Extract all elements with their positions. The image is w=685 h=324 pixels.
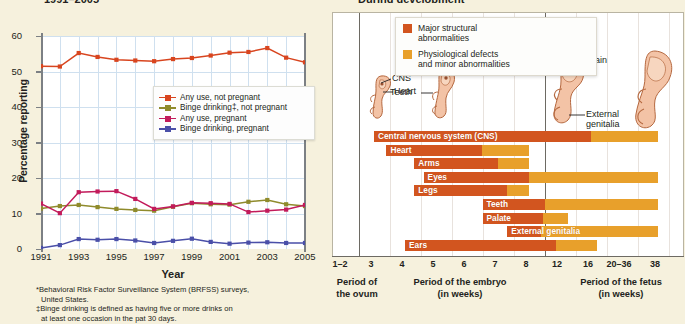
series-marker[interactable]: [265, 240, 269, 244]
series-marker[interactable]: [114, 58, 118, 62]
series-marker[interactable]: [133, 208, 137, 212]
series-marker[interactable]: [58, 64, 62, 68]
legend-label: Any use, pregnant: [180, 114, 246, 123]
series-marker[interactable]: [77, 203, 81, 207]
series-marker[interactable]: [95, 205, 99, 209]
series-marker[interactable]: [246, 210, 250, 214]
series-marker[interactable]: [152, 241, 156, 245]
series-marker[interactable]: [227, 51, 231, 55]
series-marker[interactable]: [152, 59, 156, 63]
timeline-chart-area: CNS Heart Teeth Ear Brain External genit…: [332, 12, 684, 257]
bar-segment-minor: [482, 145, 529, 156]
series-marker[interactable]: [265, 46, 269, 50]
y-tick-label: 10: [0, 208, 22, 219]
period-embryo: Period of the embryo (in weeks): [380, 277, 540, 300]
legend-item-major-structural[interactable]: Major structural abnormalities: [403, 23, 589, 44]
legend-swatch-icon: [403, 50, 412, 59]
series-marker[interactable]: [284, 241, 288, 245]
bar-teeth[interactable]: Teeth: [483, 199, 659, 210]
series-marker[interactable]: [246, 200, 250, 204]
series-marker[interactable]: [171, 57, 175, 61]
bar-arms[interactable]: Arms: [414, 158, 529, 169]
y-tick-label: 60: [0, 30, 22, 41]
bar-label: Legs: [418, 185, 437, 196]
legend-label: Binge drinking‡, not pregnant: [180, 103, 287, 112]
callout-external-genitalia-line1: External: [586, 109, 619, 120]
series-marker[interactable]: [77, 190, 81, 194]
series-marker[interactable]: [209, 201, 213, 205]
series-marker[interactable]: [41, 64, 43, 68]
bar-ears[interactable]: Ears: [405, 240, 597, 251]
series-marker[interactable]: [95, 55, 99, 59]
series-marker[interactable]: [284, 56, 288, 60]
series-marker[interactable]: [265, 198, 269, 202]
series-marker[interactable]: [284, 208, 288, 212]
y-tick-label: 20: [0, 172, 22, 183]
series-marker[interactable]: [190, 237, 194, 241]
series-marker[interactable]: [265, 209, 269, 213]
series-marker[interactable]: [303, 60, 305, 64]
callout-external-genitalia-line2: genitalia: [586, 119, 620, 130]
series-marker[interactable]: [95, 238, 99, 242]
bar-legs[interactable]: Legs: [414, 185, 529, 196]
x-tick-label: 2001: [210, 251, 250, 262]
bar-label: Ears: [409, 240, 427, 251]
series-marker[interactable]: [58, 211, 62, 215]
series-marker[interactable]: [171, 239, 175, 243]
series-marker[interactable]: [41, 246, 43, 249]
series-marker[interactable]: [171, 204, 175, 208]
left-chart-title: 1991–2005: [44, 0, 304, 3]
legend-item-binge-not-pregnant[interactable]: Binge drinking‡, not pregnant: [159, 103, 309, 112]
callout-teeth-label: Teeth: [390, 87, 412, 98]
bar-segment-minor: [498, 158, 529, 169]
series-marker[interactable]: [227, 202, 231, 206]
series-marker[interactable]: [77, 51, 81, 55]
bar-segment-minor: [591, 131, 658, 142]
bar-label: Arms: [418, 158, 439, 169]
series-marker[interactable]: [190, 56, 194, 60]
legend-item-physiological-minor[interactable]: Physiological defects and minor abnormal…: [403, 49, 589, 70]
series-marker[interactable]: [58, 243, 62, 247]
series-marker[interactable]: [303, 203, 305, 207]
period-fetus: Period of the fetus (in weeks): [556, 277, 685, 300]
bar-cns[interactable]: Central nervous system (CNS): [374, 131, 658, 142]
series-marker[interactable]: [133, 197, 137, 201]
series-marker[interactable]: [77, 237, 81, 241]
timeline-legend: Major structural abnormalities Physiolog…: [395, 17, 597, 76]
series-marker[interactable]: [41, 206, 43, 210]
period-fetus-line2: (in weeks): [556, 289, 685, 301]
bar-eyes[interactable]: Eyes: [424, 172, 658, 183]
bar-palate[interactable]: Palate: [483, 213, 568, 224]
x-tick-label: 2003: [247, 251, 287, 262]
series-marker[interactable]: [209, 53, 213, 57]
legend-item-any-use-pregnant[interactable]: Any use, pregnant: [159, 114, 309, 123]
series-marker[interactable]: [303, 241, 305, 245]
series-marker[interactable]: [114, 237, 118, 241]
series-marker[interactable]: [227, 242, 231, 246]
series-marker[interactable]: [209, 240, 213, 244]
legend-label-line1: Major structural: [418, 23, 477, 33]
right-chart-title: During development: [358, 0, 658, 3]
series-marker[interactable]: [284, 202, 288, 206]
series-marker[interactable]: [41, 201, 43, 205]
bar-segment-minor: [545, 199, 659, 210]
bar-segment-minor: [556, 240, 597, 251]
bar-label: External genitalia: [511, 226, 580, 237]
bar-segment-major: [405, 240, 556, 251]
series-marker[interactable]: [246, 241, 250, 245]
series-marker[interactable]: [133, 238, 137, 242]
series-marker[interactable]: [114, 189, 118, 193]
bar-label: Eyes: [428, 172, 447, 183]
series-marker[interactable]: [152, 207, 156, 211]
series-marker[interactable]: [133, 58, 137, 62]
bars-layer: Central nervous system (CNS)HeartArmsEye…: [333, 131, 683, 257]
bar-external-genitalia[interactable]: External genitalia: [507, 226, 658, 237]
series-marker[interactable]: [190, 201, 194, 205]
series-marker[interactable]: [58, 204, 62, 208]
series-marker[interactable]: [246, 50, 250, 54]
bar-heart[interactable]: Heart: [386, 145, 529, 156]
series-marker[interactable]: [95, 189, 99, 193]
legend-item-binge-pregnant[interactable]: Binge drinking, pregnant: [159, 124, 309, 133]
legend-item-any-use-not-pregnant[interactable]: Any use, not pregnant: [159, 93, 309, 102]
series-marker[interactable]: [114, 207, 118, 211]
